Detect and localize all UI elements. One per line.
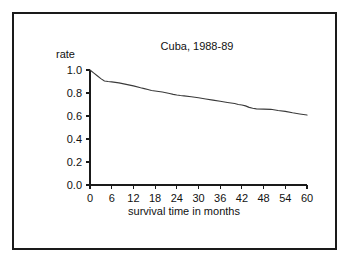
screenshot-root: Cuba, 1988-89 rate survival time in mont… [0, 0, 349, 263]
survival-curve-chart: Cuba, 1988-89 rate survival time in mont… [14, 14, 335, 248]
figure-frame: Cuba, 1988-89 rate survival time in mont… [12, 12, 337, 250]
y-axis-tick-labels: 0.00.20.40.60.81.0 [67, 64, 82, 191]
y-tick-label: 0.4 [67, 133, 82, 145]
y-tick-label: 0.8 [67, 87, 82, 99]
y-axis-title: rate [56, 48, 75, 60]
x-tick-label: 6 [109, 192, 115, 204]
x-axis-title: survival time in months [128, 205, 240, 217]
chart-title: Cuba, 1988-89 [161, 40, 234, 52]
x-tick-label: 24 [171, 192, 183, 204]
y-tick-label: 0.6 [67, 110, 82, 122]
x-axis-ticks [90, 185, 307, 189]
y-tick-label: 0.0 [67, 179, 82, 191]
x-tick-label: 36 [214, 192, 226, 204]
x-tick-label: 42 [236, 192, 248, 204]
x-tick-label: 54 [279, 192, 291, 204]
survival-rate-line [90, 70, 307, 115]
y-tick-label: 1.0 [67, 64, 82, 76]
x-axis-tick-labels: 06121824303642485460 [87, 192, 313, 204]
x-tick-label: 48 [257, 192, 269, 204]
x-tick-label: 60 [301, 192, 313, 204]
x-tick-label: 30 [192, 192, 204, 204]
y-tick-label: 0.2 [67, 156, 82, 168]
x-tick-label: 0 [87, 192, 93, 204]
x-tick-label: 18 [149, 192, 161, 204]
y-axis-ticks [86, 70, 90, 185]
x-tick-label: 12 [127, 192, 139, 204]
